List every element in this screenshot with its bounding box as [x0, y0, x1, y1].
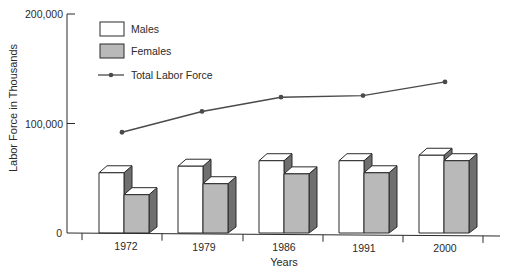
legend-marker-total: [109, 73, 114, 78]
x-tick-label: 1979: [192, 241, 216, 253]
legend-label-total: Total Labor Force: [131, 69, 213, 81]
x-tick-label: 1991: [352, 242, 376, 254]
legend-swatch-females: [100, 44, 124, 58]
y-tick-label: 0: [56, 227, 62, 239]
x-axis: 19721979198619912000: [67, 233, 500, 254]
labor-force-chart: Labor Force in Thousands Years 0100,0002…: [0, 0, 509, 272]
bar-group: [99, 148, 477, 233]
x-tick-label: 1972: [114, 240, 138, 252]
bar-females-1979: [203, 177, 236, 233]
legend-label-females: Females: [131, 45, 171, 57]
legend-swatch-males: [100, 22, 124, 36]
total-point-1991: [361, 93, 366, 98]
x-tick-label: 1986: [272, 241, 296, 253]
bar-females-1991: [364, 166, 397, 233]
total-point-1986: [279, 95, 284, 100]
total-point-1972: [120, 130, 125, 135]
y-tick-label: 100,000: [25, 118, 63, 130]
total-point-2000: [443, 79, 448, 84]
total-labor-force-line: [120, 79, 448, 134]
y-axis-title: Labor Force in Thousands: [7, 43, 19, 172]
bar-females-2000: [444, 154, 477, 233]
x-tick-label: 2000: [433, 242, 457, 254]
legend: Males Females Total Labor Force: [98, 22, 213, 81]
bar-females-1986: [284, 167, 317, 233]
x-axis-title: Years: [270, 256, 298, 268]
bar-females-1972: [124, 188, 157, 233]
y-axis: 0100,000200,000: [25, 8, 75, 239]
y-tick-label: 200,000: [25, 8, 63, 20]
legend-label-males: Males: [131, 23, 159, 35]
total-point-1979: [200, 109, 205, 114]
